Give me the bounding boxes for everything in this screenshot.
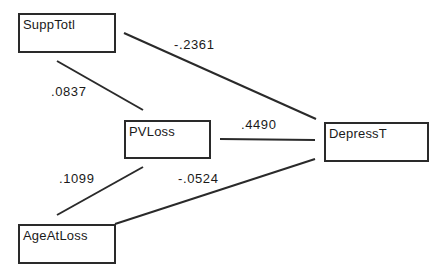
node-pvloss: PVLoss [124, 120, 211, 159]
coef-ageatloss-depresst: -.0524 [178, 171, 218, 186]
edge-pvloss-depresst [220, 139, 315, 140]
coef-supptotl-depresst: -.2361 [174, 37, 214, 52]
node-label: DepressT [329, 126, 387, 141]
node-label: PVLoss [129, 124, 175, 139]
coef-pvloss-depresst: .4490 [241, 117, 277, 132]
node-depresst: DepressT [324, 122, 429, 162]
node-label: AgeAtLoss [23, 228, 88, 243]
node-ageatloss: AgeAtLoss [18, 224, 116, 264]
edge-supptotl-depresst [124, 33, 316, 119]
node-supptotl: SuppTotl [18, 13, 116, 53]
edge-ageatloss-depresst [115, 159, 315, 224]
node-label: SuppTotl [23, 17, 75, 32]
coef-ageatloss-pvloss: .1099 [59, 171, 95, 186]
coef-supptotl-pvloss: .0837 [51, 84, 87, 99]
